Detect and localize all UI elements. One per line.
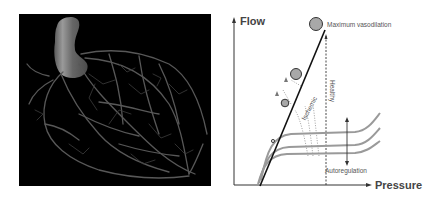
autoregulation-label: Autoregulation	[325, 167, 367, 174]
x-axis-arrow-icon	[366, 183, 372, 187]
coronary-vessels-illustration	[19, 14, 211, 186]
flow-pressure-chart: Flow Pressure Maximum vasodilation Healt…	[215, 0, 430, 201]
vessel-circle-medium	[291, 69, 302, 80]
coronary-angiogram-image	[19, 14, 211, 186]
vessel-circle-large	[310, 18, 323, 31]
healthy-arrow-icon	[325, 34, 328, 39]
chart-graphics	[215, 0, 430, 201]
healthy-label: Healthy	[329, 80, 336, 102]
ischemic-arrow-icon-1	[275, 91, 279, 96]
vessel-circle-tiny	[271, 139, 274, 142]
y-axis-label: Flow	[240, 15, 265, 27]
max-vasodilation-label: Maximum vasodilation	[327, 21, 391, 28]
down-arrow-icon	[345, 161, 349, 166]
vessel-circle-small	[281, 99, 289, 107]
x-axis-label: Pressure	[375, 179, 422, 191]
max-vasodilation-line	[260, 30, 325, 186]
y-axis-arrow-icon	[232, 17, 236, 23]
ischemic-arrow-icon-2	[284, 77, 288, 82]
up-arrow-icon	[345, 117, 349, 122]
